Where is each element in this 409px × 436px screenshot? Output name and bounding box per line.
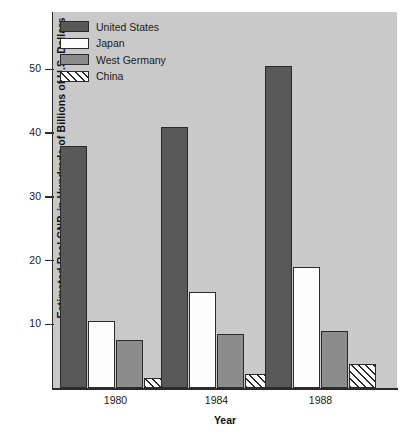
- legend-item-label: United States: [96, 21, 159, 33]
- bar-japan-1988: [293, 267, 320, 388]
- legend-swatch-icon: [60, 38, 89, 49]
- bar-japan-1984: [189, 292, 216, 388]
- legend-item-label: Japan: [96, 37, 125, 49]
- y-axis-tick: [45, 132, 54, 134]
- legend-swatch-icon: [60, 71, 89, 82]
- bar-japan-1980: [88, 321, 115, 388]
- bar-united-states-1980: [60, 146, 87, 388]
- y-axis-tick: [45, 196, 54, 198]
- legend-item-label: China: [96, 70, 123, 82]
- legend-item-label: West Germany: [96, 54, 166, 66]
- legend-swatch-icon: [60, 54, 89, 65]
- legend-item-china: China: [60, 69, 166, 84]
- bar-united-states-1984: [161, 127, 188, 388]
- y-axis-tick-label: 20: [0, 254, 41, 266]
- x-axis-tick-label-1988: 1988: [291, 394, 351, 406]
- legend-item-japan: Japan: [60, 36, 166, 51]
- bar-west-germany-1988: [321, 331, 348, 388]
- x-axis-title: Year: [52, 414, 398, 426]
- y-axis-tick-label: 50: [0, 62, 41, 74]
- legend-swatch-icon: [60, 21, 89, 32]
- bar-united-states-1988: [265, 66, 292, 388]
- x-axis-tick-label-1980: 1980: [86, 394, 146, 406]
- chart-legend: United StatesJapanWest GermanyChina: [60, 19, 166, 85]
- y-axis-tick-label: 10: [0, 317, 41, 329]
- legend-item-west-germany: West Germany: [60, 52, 166, 67]
- y-axis-tick: [45, 69, 54, 71]
- y-axis-tick: [45, 324, 54, 326]
- gnp-bar-chart: Estimated Real GNP, in Hundreds of Billi…: [0, 0, 409, 436]
- y-axis-tick-label: 40: [0, 126, 41, 138]
- legend-item-united-states: United States: [60, 19, 166, 34]
- x-axis-tick-label-1984: 1984: [187, 394, 247, 406]
- bar-west-germany-1984: [217, 334, 244, 388]
- bar-west-germany-1980: [116, 340, 143, 388]
- x-axis-line: [52, 388, 398, 390]
- y-axis-tick-label: 30: [0, 190, 41, 202]
- bar-china-1988: [349, 364, 376, 388]
- y-axis-tick: [45, 260, 54, 262]
